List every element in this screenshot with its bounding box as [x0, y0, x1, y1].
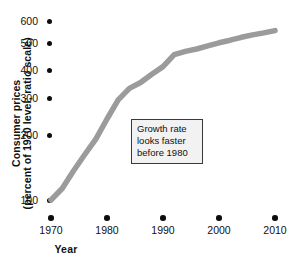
annotation-line-1: Growth rate	[137, 123, 198, 135]
x-tick-dot-1980	[104, 215, 110, 221]
x-tick-label-1990: 1990	[139, 224, 187, 236]
x-tick-label-2010: 2010	[251, 224, 296, 236]
annotation-line-2: looks faster	[137, 135, 198, 147]
x-axis-title: Year	[36, 243, 96, 255]
x-tick-label-2000: 2000	[195, 224, 243, 236]
x-tick-dot-1990	[160, 215, 166, 221]
chart-container: Consumer prices (percent of 1970 level; …	[0, 0, 296, 265]
x-tick-dot-2000	[216, 215, 222, 221]
x-tick-dot-1970	[48, 215, 54, 221]
x-tick-label-1970: 1970	[27, 224, 75, 236]
x-tick-label-1980: 1980	[83, 224, 131, 236]
growth-rate-annotation: Growth rate looks faster before 1980	[131, 119, 203, 164]
x-tick-dot-2010	[272, 215, 278, 221]
annotation-line-3: before 1980	[137, 147, 198, 159]
